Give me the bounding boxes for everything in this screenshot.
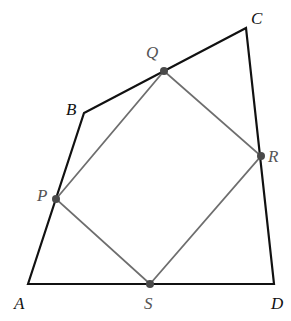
label-a: A: [13, 294, 25, 313]
label-p: P: [36, 186, 47, 205]
quadrilateral-pqrs: [56, 71, 261, 284]
point-p: [52, 195, 60, 203]
quadrilateral-diagram: ABCDPQRS: [0, 0, 291, 321]
quadrilateral-abcd: [28, 28, 274, 284]
midpoints: [52, 67, 265, 288]
label-c: C: [251, 9, 263, 28]
label-d: D: [270, 294, 284, 313]
point-r: [257, 152, 265, 160]
label-q: Q: [146, 43, 158, 62]
label-s: S: [144, 294, 153, 313]
label-b: B: [66, 100, 77, 119]
point-s: [146, 280, 154, 288]
point-q: [160, 67, 168, 75]
label-r: R: [267, 147, 279, 166]
vertex-labels: ABCDPQRS: [13, 9, 284, 313]
